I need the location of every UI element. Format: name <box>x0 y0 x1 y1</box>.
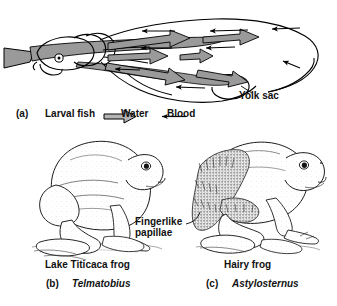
panel-c-genus: Astylosternus <box>232 278 299 289</box>
fingerlike-papillae-label-line1: Fingerlike <box>135 216 182 227</box>
panel-b-genus: Telmatobius <box>72 278 131 289</box>
nostril-icon <box>320 162 322 164</box>
fingerlike-papillae-label-line2: papillae <box>135 227 172 238</box>
legend-water-label: Water <box>121 108 148 119</box>
legend-blood-label: Blood <box>167 108 195 119</box>
panel-b-common-name: Lake Titicaca frog <box>45 259 130 270</box>
fish-eye-icon <box>55 54 63 62</box>
panel-c-common-name: Hairy frog <box>224 259 271 270</box>
panel-a-letter: (a) <box>16 108 28 119</box>
yolk-sac-label: Yolk sac <box>239 90 279 101</box>
panel-a-caption: Larval fish <box>45 108 95 119</box>
panel-c-letter: (c) <box>206 278 218 289</box>
panel-b-letter: (b) <box>46 278 59 289</box>
